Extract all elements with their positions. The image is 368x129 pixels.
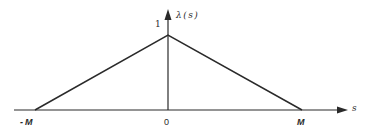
triangular-window-diagram: 1 λ(s) s -M 0 M — [0, 0, 368, 129]
y-axis-arrow-icon — [165, 9, 172, 20]
tick-label-neg-m: -M — [20, 117, 35, 127]
tick-label-origin: 0 — [164, 117, 169, 127]
y-axis-label: λ(s) — [176, 10, 199, 20]
peak-value-label: 1 — [155, 19, 161, 29]
x-axis-label: s — [352, 103, 357, 113]
x-axis-arrow-icon — [337, 107, 348, 114]
tick-label-m: M — [297, 117, 305, 127]
